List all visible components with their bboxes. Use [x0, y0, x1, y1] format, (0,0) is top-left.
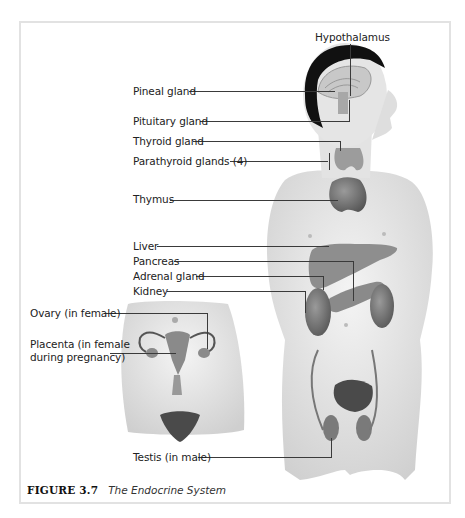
- label-pancreas: Pancreas: [133, 255, 179, 268]
- label-ovary: Ovary (in female): [30, 307, 120, 320]
- female-pelvis: [121, 301, 244, 442]
- label-pineal-gland: Pineal gland: [133, 85, 196, 98]
- leader-pituitary-v: [349, 100, 350, 122]
- leader-pancreas: [174, 261, 354, 262]
- label-adrenal-gland: Adrenal gland: [133, 270, 205, 283]
- leader-pineal: [189, 91, 335, 92]
- figure-title: The Endocrine System: [108, 484, 226, 496]
- label-placenta-line1: Placenta (in female: [30, 338, 130, 351]
- label-thymus: Thymus: [133, 193, 174, 206]
- label-liver: Liver: [133, 240, 158, 253]
- leader-ovary-v: [207, 313, 208, 349]
- leader-kidney-v: [305, 291, 306, 313]
- label-placenta-line2: during pregnancy): [30, 351, 125, 364]
- leader-pituitary: [200, 121, 349, 122]
- leader-thymus: [170, 200, 338, 201]
- label-parathyroid-glands: Parathyroid glands (4): [133, 155, 247, 168]
- leader-liver: [157, 246, 329, 247]
- leader-thyroid-v: [340, 141, 341, 151]
- leader-testis-v: [331, 438, 332, 458]
- figure-number: FIGURE 3.7: [27, 484, 98, 496]
- label-testis: Testis (in male): [133, 451, 211, 464]
- endocrine-illustration: [0, 0, 465, 518]
- leader-hypothalamus: [350, 44, 351, 96]
- leader-parathyroid-bracket: [329, 153, 330, 170]
- label-thyroid-gland: Thyroid gland: [133, 135, 204, 148]
- label-kidney: Kidney: [133, 285, 168, 298]
- figure-caption: FIGURE 3.7The Endocrine System: [27, 484, 226, 496]
- leader-testis: [198, 457, 332, 458]
- label-pituitary-gland: Pituitary gland: [133, 115, 208, 128]
- leader-kidney: [167, 291, 305, 292]
- label-hypothalamus: Hypothalamus: [315, 31, 390, 44]
- leader-adrenal: [196, 276, 324, 277]
- leader-thyroid: [193, 141, 340, 142]
- leader-adrenal-v: [323, 276, 324, 290]
- leader-pancreas-v: [353, 261, 354, 301]
